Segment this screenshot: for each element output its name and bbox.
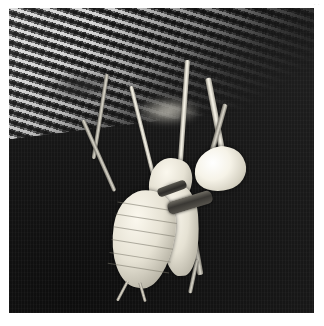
cercus-left bbox=[116, 281, 129, 302]
page-canvas: · · bbox=[0, 0, 324, 326]
insect bbox=[9, 8, 314, 313]
head bbox=[189, 141, 251, 198]
corner-mark: · · bbox=[314, 1, 320, 7]
leg-mid-right bbox=[178, 60, 190, 164]
photograph bbox=[9, 8, 314, 313]
